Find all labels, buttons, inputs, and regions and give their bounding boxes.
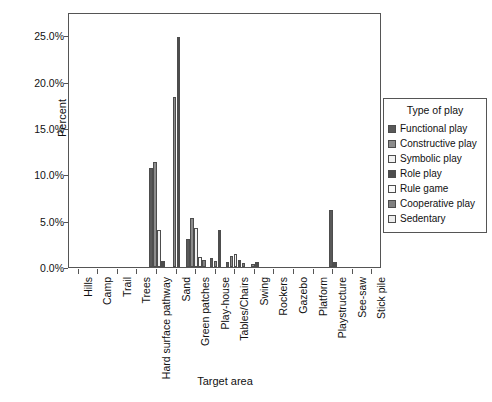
y-tick-mark: [64, 222, 68, 223]
bar: [190, 218, 193, 267]
x-tick-mark: [352, 269, 353, 274]
x-tick-mark: [195, 269, 196, 274]
x-tick-label: Swing: [258, 277, 270, 306]
legend-swatch-icon: [388, 170, 396, 178]
bar: [230, 256, 233, 267]
y-tick-mark: [64, 129, 68, 130]
x-tick-mark: [293, 269, 294, 274]
legend-label: Rule game: [400, 183, 448, 194]
bar: [161, 261, 164, 267]
bar: [329, 210, 332, 267]
bar: [251, 264, 254, 267]
x-tick-label: Camp: [101, 277, 113, 305]
bar: [234, 254, 237, 267]
x-tick-mark: [78, 269, 79, 274]
x-tick-mark: [234, 269, 235, 274]
x-tick-label: Green patches: [199, 277, 211, 346]
x-tick-label: Play-house: [219, 277, 231, 330]
bar: [255, 262, 258, 267]
x-tick-mark: [215, 269, 216, 274]
x-tick-label: Trees: [140, 277, 152, 303]
bar: [186, 239, 189, 267]
bar: [153, 162, 156, 267]
legend-label: Symbolic play: [400, 153, 462, 164]
y-tick-label: 10.0%: [20, 169, 64, 181]
x-tick-label: Hills: [82, 277, 94, 297]
x-tick-label: See-saw: [356, 277, 368, 318]
y-axis-tick-labels: 0.0%5.0%10.0%15.0%20.0%25.0%: [14, 0, 64, 402]
x-tick-label: Hard surface pathway: [160, 277, 172, 379]
legend-swatch-icon: [388, 185, 396, 193]
bar-chart: Percent 0.0%5.0%10.0%15.0%20.0%25.0% Hil…: [0, 0, 492, 402]
bar: [218, 230, 221, 267]
legend-label: Functional play: [400, 123, 467, 134]
bar: [177, 37, 180, 267]
plot-area: [68, 13, 381, 268]
legend-items: Functional playConstructive playSymbolic…: [388, 121, 482, 226]
legend-item[interactable]: Rule game: [388, 181, 482, 196]
legend-swatch-icon: [388, 200, 396, 208]
legend-swatch-icon: [388, 215, 396, 223]
legend-item[interactable]: Role play: [388, 166, 482, 181]
legend-title: Type of play: [388, 104, 482, 116]
x-tick-mark: [176, 269, 177, 274]
x-tick-mark: [136, 269, 137, 274]
y-tick-mark: [64, 268, 68, 269]
x-tick-mark: [313, 269, 314, 274]
legend-swatch-icon: [388, 125, 396, 133]
bar: [210, 258, 213, 267]
legend-item[interactable]: Functional play: [388, 121, 482, 136]
bar: [157, 230, 160, 267]
legend-label: Constructive play: [400, 138, 477, 149]
x-tick-label: Tables/Chairs: [238, 277, 250, 341]
x-tick-label: Playstructure: [336, 277, 348, 338]
bar: [226, 262, 229, 267]
bar: [214, 261, 217, 267]
y-tick-mark: [64, 36, 68, 37]
x-tick-label: Gazebo: [297, 277, 309, 314]
x-tick-mark: [254, 269, 255, 274]
legend-label: Cooperative play: [400, 198, 475, 209]
x-axis-title: Target area: [130, 375, 320, 387]
legend-swatch-icon: [388, 155, 396, 163]
bar: [149, 168, 152, 267]
y-tick-mark: [64, 175, 68, 176]
legend-item[interactable]: Constructive play: [388, 136, 482, 151]
y-tick-label: 20.0%: [20, 77, 64, 89]
x-tick-mark: [156, 269, 157, 274]
y-tick-label: 25.0%: [20, 30, 64, 42]
legend-label: Sedentary: [400, 213, 446, 224]
x-tick-mark: [97, 269, 98, 274]
x-tick-label: Rockers: [277, 277, 289, 316]
legend-item[interactable]: Cooperative play: [388, 196, 482, 211]
legend-label: Role play: [400, 168, 442, 179]
legend-item[interactable]: Sedentary: [388, 211, 482, 226]
x-tick-label: Trail: [121, 277, 133, 297]
x-tick-mark: [117, 269, 118, 274]
x-tick-label: Platform: [317, 277, 329, 316]
x-tick-mark: [332, 269, 333, 274]
bar: [173, 97, 176, 267]
y-tick-label: 0.0%: [20, 262, 64, 274]
y-tick-label: 5.0%: [20, 216, 64, 228]
legend-item[interactable]: Symbolic play: [388, 151, 482, 166]
bar: [238, 260, 241, 267]
y-tick-mark: [64, 83, 68, 84]
legend-swatch-icon: [388, 140, 396, 148]
x-tick-label: Stick pile: [375, 277, 387, 319]
x-tick-mark: [273, 269, 274, 274]
bar: [194, 228, 197, 267]
bar: [242, 263, 245, 267]
bar-series-container: [69, 14, 380, 267]
bar: [202, 260, 205, 267]
y-tick-label: 15.0%: [20, 123, 64, 135]
x-tick-mark: [371, 269, 372, 274]
bar: [198, 257, 201, 267]
x-tick-label: Sand: [180, 277, 192, 302]
legend: Type of play Functional playConstructive…: [383, 98, 487, 233]
bar: [333, 262, 336, 267]
